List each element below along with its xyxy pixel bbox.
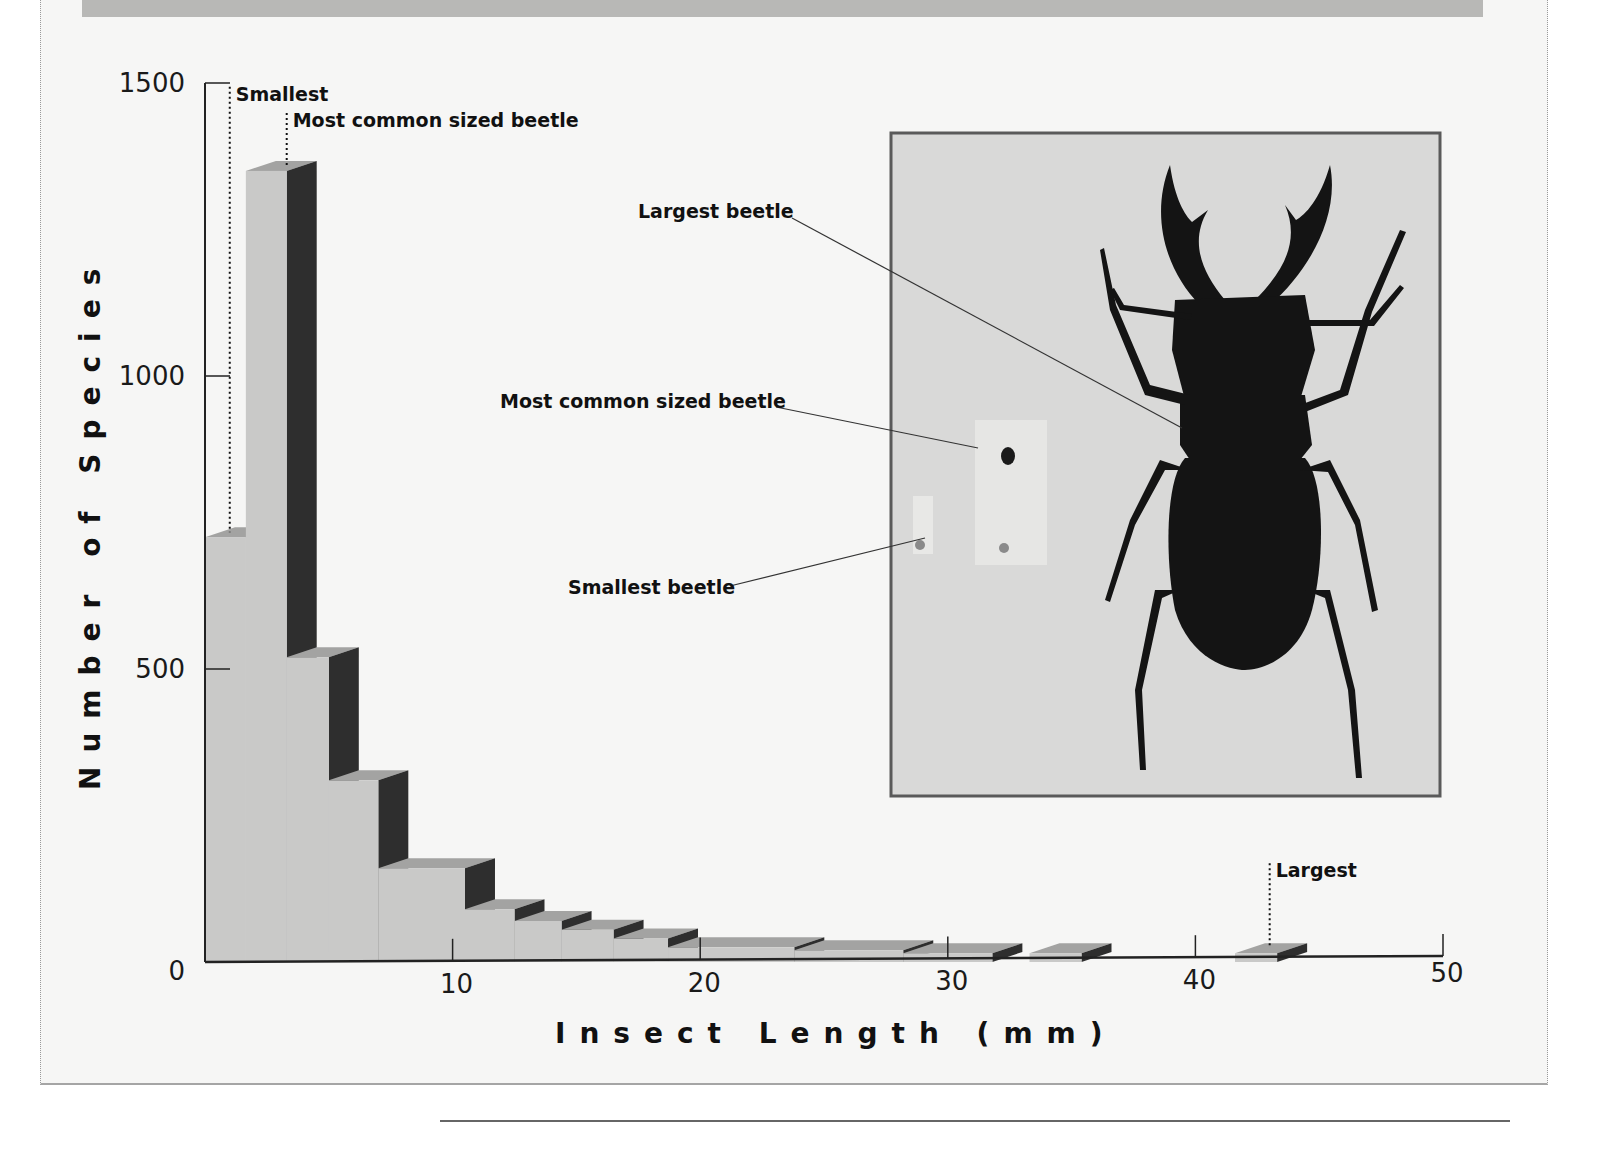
y-tick-label: 1000 — [119, 361, 185, 391]
annotation-label: Most common sized beetle — [293, 109, 579, 131]
beetle-photo-inset: Largest beetle Most common sized beetle … — [500, 133, 1440, 796]
annotation-label: Largest — [1276, 859, 1357, 881]
x-axis-title: Insect Length (mm) — [555, 1017, 1117, 1050]
x-tick-label: 50 — [1430, 958, 1463, 988]
common-beetle-icon — [1001, 447, 1015, 465]
pin-head — [915, 540, 925, 550]
label-largest-beetle: Largest beetle — [638, 200, 794, 222]
y-tick-label: 500 — [135, 654, 185, 684]
x-tick-label: 40 — [1183, 965, 1216, 995]
y-tick-label: 1500 — [119, 68, 185, 98]
annotation-label: Smallest — [236, 83, 329, 105]
histogram-bar — [1235, 943, 1307, 962]
x-tick-label: 10 — [440, 969, 473, 999]
label-smallest-beetle: Smallest beetle — [568, 576, 735, 598]
histogram-chart: 0500100015001020304050 SmallestMost comm… — [0, 0, 1616, 1158]
common-beetle-card — [975, 420, 1047, 565]
x-tick-label: 30 — [935, 966, 968, 996]
pin-head — [999, 543, 1009, 553]
x-tick-label: 20 — [688, 968, 721, 998]
y-tick-label: 0 — [168, 956, 185, 986]
y-axis-title: Number of Species — [74, 255, 107, 790]
label-most-common-beetle: Most common sized beetle — [500, 390, 786, 412]
